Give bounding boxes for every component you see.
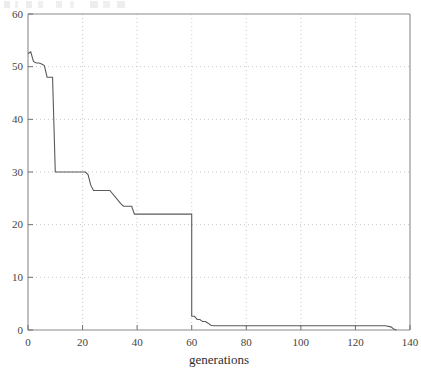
x-tick-label: 80: [241, 336, 253, 348]
y-tick-label: 50: [12, 60, 24, 72]
x-tick-label: 0: [25, 336, 31, 348]
x-axis-title: generations: [189, 352, 249, 367]
x-tick-label: 20: [77, 336, 89, 348]
y-tick-label: 40: [12, 113, 24, 125]
y-tick-label: 0: [18, 324, 24, 336]
x-tick-label: 40: [132, 336, 144, 348]
y-tick-label: 20: [12, 218, 24, 230]
y-tick-label: 30: [12, 166, 24, 178]
y-tick-label: 60: [12, 8, 24, 20]
line-chart: 0 10 20 30 40 50 60 0 20 40 60 80 100 12…: [0, 0, 421, 371]
figure-container: 0 10 20 30 40 50 60 0 20 40 60 80 100 12…: [0, 0, 421, 371]
x-tick-label: 140: [402, 336, 419, 348]
x-tick-label: 120: [347, 336, 364, 348]
y-tick-labels: 0 10 20 30 40 50 60: [12, 8, 24, 336]
x-tick-label: 100: [293, 336, 310, 348]
x-tick-labels: 0 20 40 60 80 100 120 140: [25, 336, 419, 348]
y-tick-label: 10: [12, 271, 24, 283]
x-tick-label: 60: [186, 336, 198, 348]
